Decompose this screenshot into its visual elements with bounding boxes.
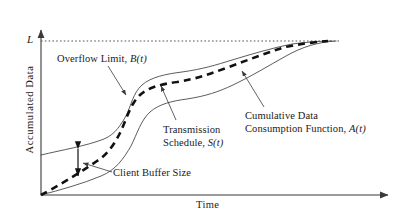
overflow-limit-pointer [108, 66, 126, 95]
transmission-schedule-text: Schedule, [163, 137, 208, 148]
x-axis-label: Time [196, 199, 219, 212]
consumption-function-text: Consumption Function, [245, 123, 349, 134]
limit-tick-label: L [27, 33, 33, 46]
y-axis-label: Accumulated Data [24, 55, 35, 165]
overflow-limit-symbol: B(t) [130, 53, 147, 64]
transmission-schedule-line1: Transmission [163, 124, 223, 137]
transmission-schedule-symbol: S(t) [208, 137, 224, 148]
consumption-function-pointer [242, 71, 264, 107]
consumption-function-line1: Cumulative Data [245, 110, 366, 123]
consumption-function-symbol: A(t) [349, 123, 366, 134]
transmission-schedule-annotation: Transmission Schedule, S(t) [163, 124, 223, 149]
transmission-schedule-line2: Schedule, S(t) [163, 137, 223, 150]
overflow-limit-text: Overflow Limit, [57, 53, 130, 64]
transmission-schedule-pointer [161, 86, 176, 120]
consumption-function-annotation: Cumulative Data Consumption Function, A(… [245, 110, 366, 135]
overflow-limit-annotation: Overflow Limit, B(t) [57, 53, 147, 66]
accumulated-data-vs-time-diagram: Accumulated Data Time L Overflow Limit, … [0, 0, 408, 220]
consumption-function-line2: Consumption Function, A(t) [245, 123, 366, 136]
client-buffer-size-annotation: Client Buffer Size [113, 167, 191, 180]
